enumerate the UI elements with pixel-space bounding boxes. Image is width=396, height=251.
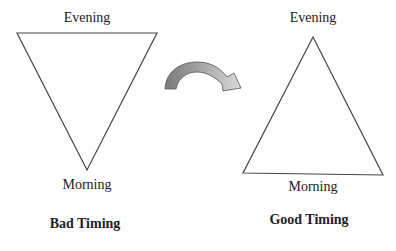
left-top-label: Evening — [64, 10, 111, 26]
bad-timing-triangle — [17, 33, 157, 170]
right-bottom-label: Morning — [289, 179, 338, 195]
right-top-label: Evening — [290, 10, 337, 26]
right-caption: Good Timing — [269, 212, 348, 228]
left-bottom-label: Morning — [63, 177, 112, 193]
curved-arrow-icon — [165, 62, 241, 91]
left-caption: Bad Timing — [50, 216, 121, 232]
good-timing-triangle — [243, 37, 383, 175]
